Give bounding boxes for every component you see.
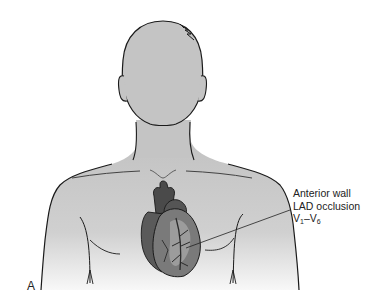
panel-label: A bbox=[27, 279, 35, 293]
callout-label: Anterior wall LAD occlusion V1–V6 bbox=[293, 187, 360, 229]
anterior-wall-mi-diagram bbox=[0, 0, 380, 303]
head bbox=[119, 21, 207, 126]
callout-line-location: Anterior wall bbox=[293, 187, 360, 200]
callout-line-artery: LAD occlusion bbox=[293, 200, 360, 213]
callout-line-leads: V1–V6 bbox=[293, 212, 360, 229]
